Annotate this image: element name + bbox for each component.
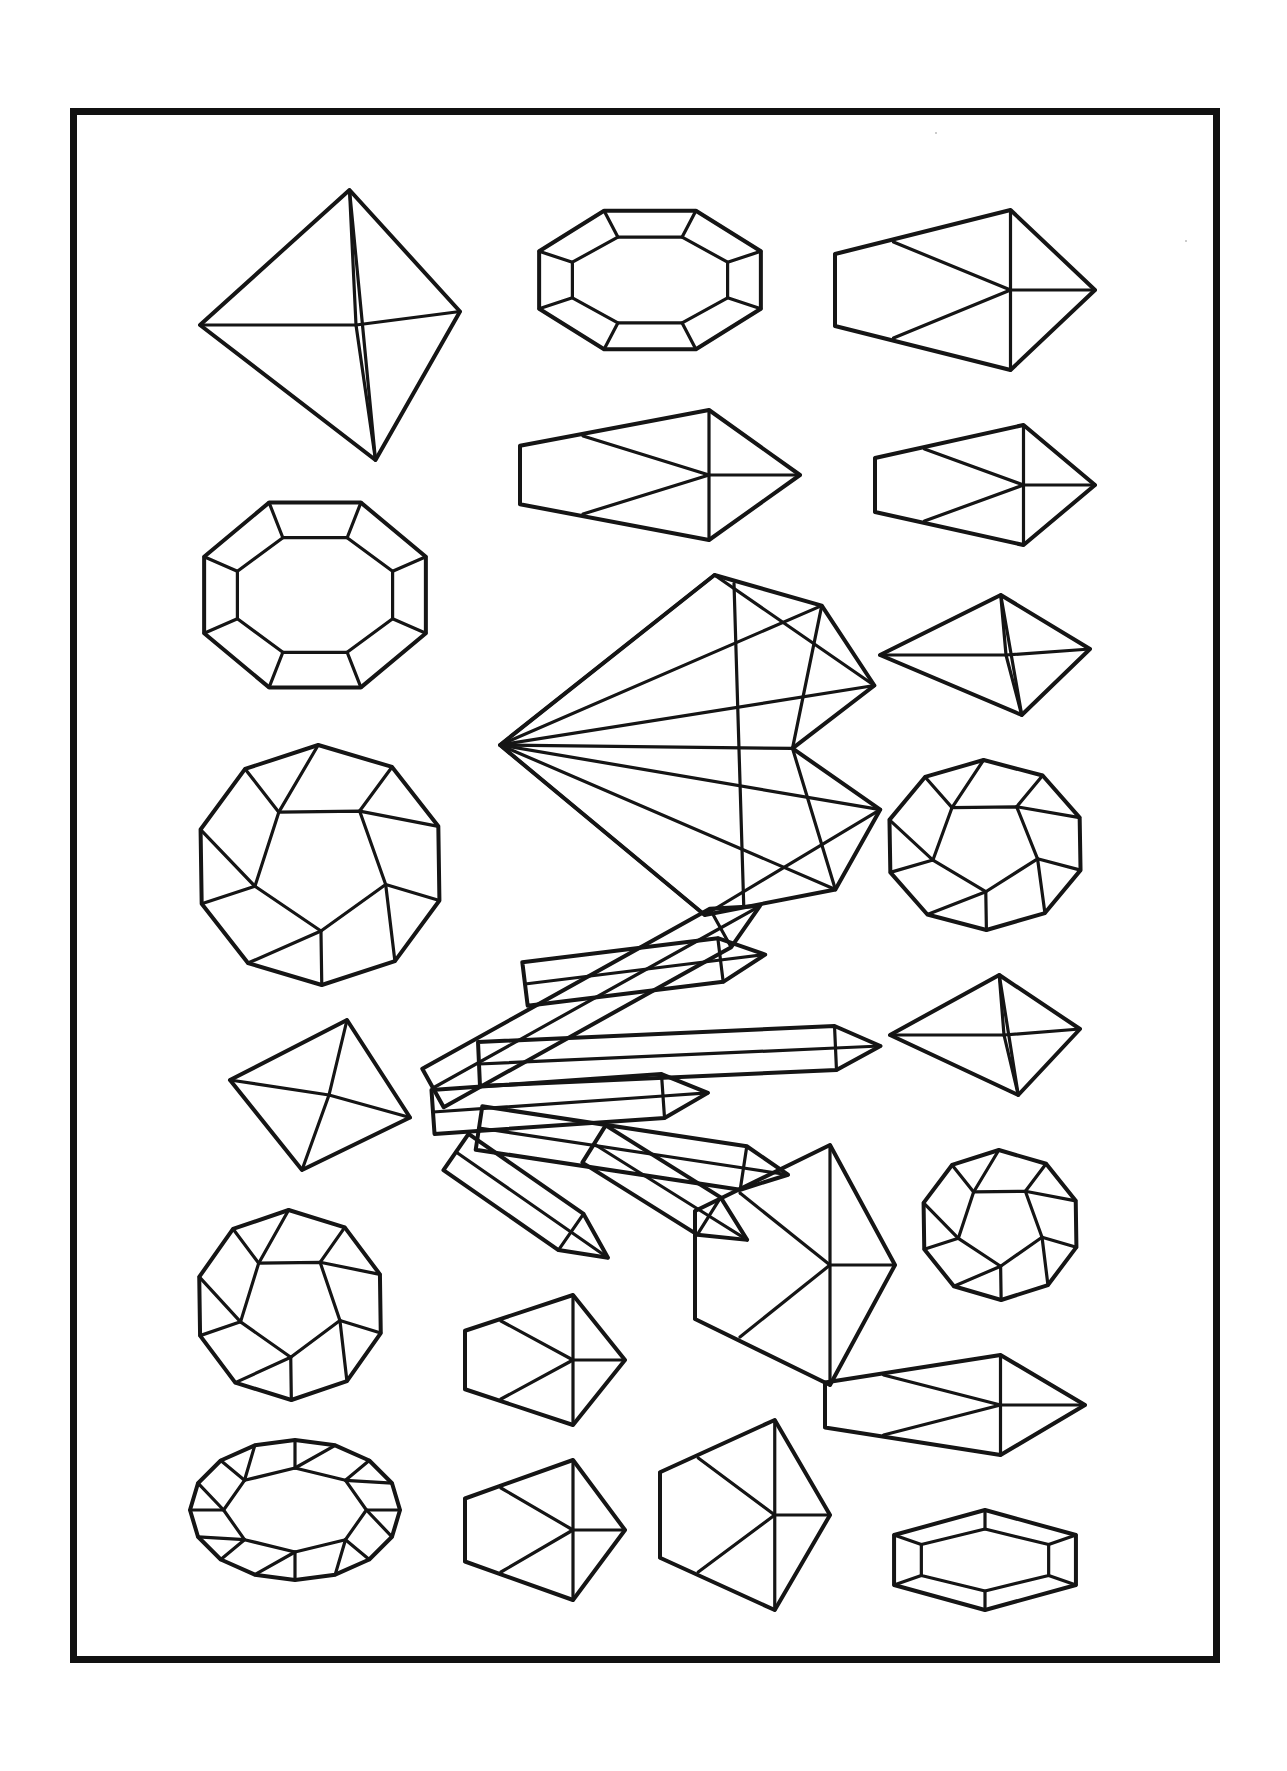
trillion-pear-gem-icon (200, 190, 460, 460)
hexagonal-prism-crystal-icon (835, 210, 1095, 370)
oval-rose-cut-gem-icon (190, 1440, 400, 1580)
long-prism-crystal-icon (825, 1355, 1085, 1455)
heart-gem-icon (500, 575, 880, 915)
octagon-cushion-gem-icon (204, 503, 426, 688)
round-octagon-gem-icon (199, 1210, 381, 1400)
crystal-cluster-icon (422, 906, 880, 1258)
small-pointed-prism-icon (875, 425, 1095, 545)
barrel-prism-small-icon (465, 1460, 625, 1600)
paper-speck (1185, 240, 1187, 242)
box-prism-gem-icon (465, 1295, 625, 1425)
pointed-shard-crystal-icon (695, 1145, 895, 1385)
gem-illustrations (0, 0, 1287, 1771)
elongated-hexagon-gem-icon (894, 1510, 1076, 1610)
marquise-gem-icon (880, 595, 1090, 715)
faceted-nugget-icon (889, 760, 1080, 930)
trillion-small-icon (230, 1020, 410, 1170)
round-brilliant-tilted-icon (201, 745, 440, 985)
long-pointed-crystal-icon (520, 410, 800, 540)
emerald-cut-gem-top-icon (539, 211, 761, 350)
coloring-page (0, 0, 1287, 1771)
kite-gem-icon (890, 975, 1080, 1095)
tall-pointed-crystal-icon (660, 1420, 830, 1610)
rounded-barrel-gem-icon (924, 1150, 1077, 1300)
paper-speck (935, 132, 937, 134)
